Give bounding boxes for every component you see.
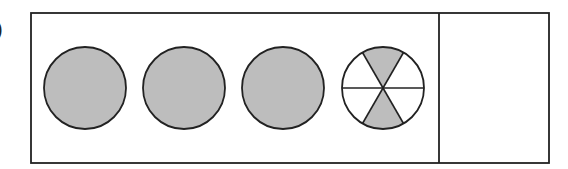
circle-4-partially-shaded xyxy=(342,47,424,129)
circle-1-whole-shaded xyxy=(44,47,126,129)
answer-box xyxy=(441,15,547,161)
fraction-diagram xyxy=(0,0,568,169)
circle-2-whole-shaded xyxy=(143,47,225,129)
circle-3-whole-shaded xyxy=(242,47,324,129)
